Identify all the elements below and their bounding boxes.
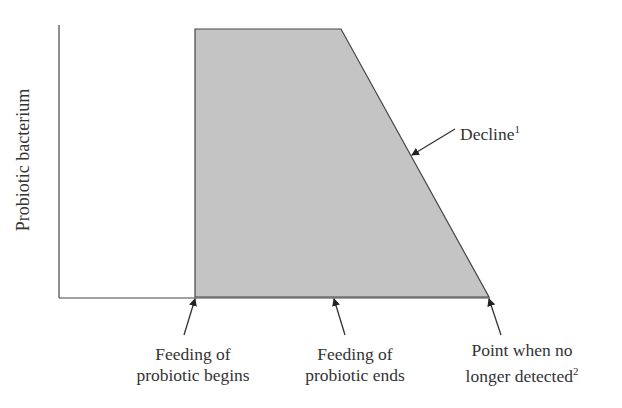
decline-arrow — [412, 129, 455, 155]
decline-label: Decline1 — [460, 119, 520, 145]
feeding-ends-arrow — [334, 299, 345, 335]
feeding-begins-label: Feeding of probiotic begins — [118, 344, 268, 386]
feeding-begins-arrow — [184, 299, 195, 335]
feeding-ends-label: Feeding of probiotic ends — [280, 344, 430, 386]
no-longer-detected-label: Point when no longer detected2 — [442, 340, 602, 387]
no-longer-detected-arrow — [489, 299, 501, 335]
y-axis-label: Probiotic bacterium — [13, 89, 34, 231]
probiotic-population-area — [195, 29, 489, 297]
